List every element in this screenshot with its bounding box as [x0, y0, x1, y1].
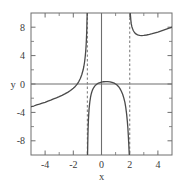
y-tick-label: -8: [17, 135, 25, 146]
x-tick-label: -4: [41, 159, 49, 170]
y-axis-title: y: [10, 79, 16, 90]
plot-figure: -4-2024-8-4048xy: [0, 0, 187, 190]
curve-branch-right: [130, 13, 172, 36]
y-tick-label: 8: [20, 22, 25, 33]
y-tick-label: 0: [20, 79, 25, 90]
x-axis-title: x: [99, 171, 105, 182]
y-tick-label: -4: [17, 107, 25, 118]
x-tick-label: 4: [155, 159, 160, 170]
y-tick-label: 4: [20, 50, 25, 61]
x-tick-label: 0: [99, 159, 104, 170]
x-tick-label: 2: [127, 159, 132, 170]
curve-branch-middle: [88, 82, 130, 155]
curve-branch-left: [31, 13, 87, 107]
x-tick-label: -2: [69, 159, 77, 170]
function-plot: -4-2024-8-4048xy: [0, 0, 187, 190]
